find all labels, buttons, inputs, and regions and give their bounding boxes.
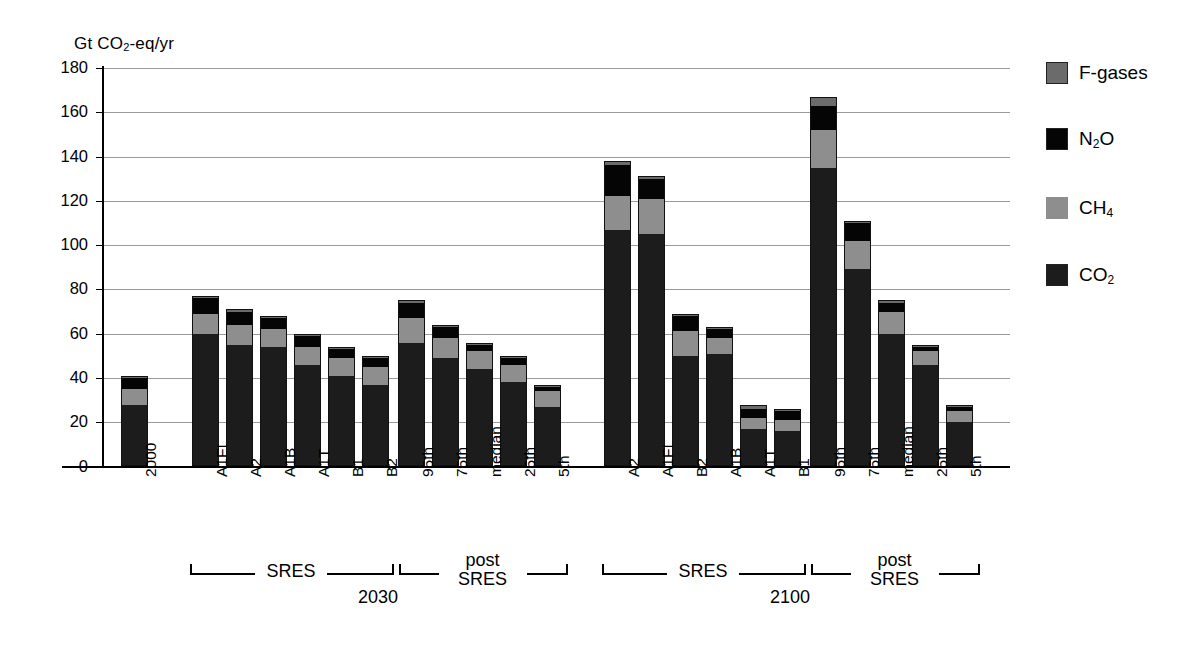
bar-segment-ch4 — [912, 351, 939, 364]
bar-segment-fgas — [740, 405, 767, 409]
bar-segment-ch4 — [604, 196, 631, 229]
bar-segment-n2o — [878, 303, 905, 312]
y-axis-tick-mark — [96, 68, 104, 69]
bar-segment-fgas — [294, 334, 321, 336]
bar-segment-fgas — [192, 296, 219, 298]
bar-segment-n2o — [810, 106, 837, 130]
bar-segment-n2o — [774, 411, 801, 420]
x-axis-label-a2-2: A2 — [247, 458, 265, 477]
y-axis-tick-label: 20 — [44, 413, 88, 430]
legend-swatch-co2-icon — [1046, 264, 1068, 286]
y-axis-tick-mark — [96, 112, 104, 113]
x-axis-label-b1-17: B1 — [795, 458, 813, 477]
bar-75th-19 — [844, 221, 871, 467]
bar-a1fi-1 — [192, 296, 219, 466]
y-axis-tick-label: 80 — [44, 280, 88, 297]
bar-segment-ch4 — [740, 418, 767, 429]
post-sres-2030-bracket-right-tick — [566, 564, 568, 575]
x-axis-label-75th-8: 75th — [453, 447, 471, 477]
bar-segment-ch4 — [192, 314, 219, 334]
x-axis-label-a1t-16: A1T — [761, 449, 779, 477]
bar-segment-fgas — [878, 300, 905, 302]
x-axis-label-25th-10: 25th — [521, 447, 539, 477]
bar-segment-fgas — [672, 314, 699, 316]
bar-segment-n2o — [260, 318, 287, 329]
bar-segment-n2o — [672, 316, 699, 331]
bar-segment-ch4 — [260, 329, 287, 347]
y-axis-tick-label: 100 — [44, 236, 88, 253]
x-axis-label-5th-22: 5th — [967, 455, 985, 477]
x-axis-label-a1t-4: A1T — [315, 449, 333, 477]
x-axis-label-a1b-15: A1B — [727, 448, 745, 477]
bar-segment-fgas — [604, 161, 631, 165]
y-axis-tick-mark — [96, 289, 104, 290]
bar-segment-fgas — [774, 409, 801, 411]
x-axis-label-a1b-3: A1B — [281, 448, 299, 477]
bar-segment-ch4 — [706, 338, 733, 353]
bar-segment-n2o — [294, 336, 321, 347]
bar-segment-n2o — [706, 329, 733, 338]
bar-segment-fgas — [534, 385, 561, 387]
emissions-stacked-bar-chart: Gt CO2-eq/yr 020406080100120140160180 20… — [0, 0, 1200, 649]
legend-swatch-n2o-icon — [1046, 128, 1068, 150]
bar-segment-ch4 — [844, 241, 871, 270]
x-axis-label-b2-14: B2 — [693, 458, 711, 477]
legend-item-co2[interactable]: CO2 — [1046, 264, 1114, 286]
legend-item-n2o[interactable]: N2O — [1046, 128, 1114, 150]
gridline — [102, 68, 1010, 69]
bar-segment-n2o — [121, 378, 148, 389]
bar-segment-fgas — [362, 356, 389, 358]
bar-segment-fgas — [466, 343, 493, 345]
y-axis-tick-mark — [96, 157, 104, 158]
gridline — [102, 201, 1010, 202]
post-sres-2030-label: postSRES — [423, 551, 543, 589]
bar-b2-6 — [362, 356, 389, 467]
bar-segment-fgas — [398, 300, 425, 302]
legend-label-n2o: N2O — [1079, 128, 1114, 151]
legend-label-fgas: F-gases — [1079, 62, 1148, 84]
y-axis-tick-label: 0 — [44, 458, 88, 475]
legend-item-fgas[interactable]: F-gases — [1046, 62, 1148, 84]
bar-segment-ch4 — [638, 199, 665, 234]
post-sres-2100-label-line2: SRES — [835, 570, 955, 589]
bar-segment-fgas — [226, 309, 253, 311]
bar-segment-n2o — [604, 165, 631, 196]
bar-segment-fgas — [260, 316, 287, 318]
y-axis-unit-label: Gt CO2-eq/yr — [74, 34, 174, 54]
bar-segment-ch4 — [226, 325, 253, 345]
y-axis-tick-label: 120 — [44, 192, 88, 209]
sres-2030-label: SRES — [231, 561, 351, 582]
y-axis-tick-mark — [96, 201, 104, 202]
y-axis-tick-label: 160 — [44, 103, 88, 120]
y-axis-unit-tail: -eq/yr — [130, 34, 175, 53]
bar-a1b-3 — [260, 316, 287, 467]
bar-a2-12 — [604, 161, 631, 467]
x-axis-label-25th-21: 25th — [933, 447, 951, 477]
x-axis-label-a2-12: A2 — [625, 458, 643, 477]
sres-2100-year-label: 2100 — [770, 587, 810, 608]
x-axis-label-5th-11: 5th — [555, 455, 573, 477]
x-axis-label-95th-7: 95th — [419, 447, 437, 477]
bar-segment-n2o — [226, 312, 253, 325]
bar-segment-ch4 — [878, 312, 905, 334]
legend-item-ch4[interactable]: CH4 — [1046, 197, 1113, 219]
bar-segment-fgas — [946, 405, 973, 407]
gridline — [102, 157, 1010, 158]
bar-segment-fgas — [500, 356, 527, 358]
bar-segment-ch4 — [432, 338, 459, 358]
bar-segment-n2o — [740, 409, 767, 418]
post-sres-2100-bracket-right-tick — [978, 564, 980, 575]
bar-segment-ch4 — [774, 420, 801, 431]
y-axis-tick-mark — [96, 334, 104, 335]
y-axis-unit-main: Gt CO — [74, 34, 123, 53]
bar-segment-ch4 — [294, 347, 321, 365]
gridline — [102, 112, 1010, 113]
post-sres-2100-label: postSRES — [835, 551, 955, 589]
bar-a1t-4 — [294, 334, 321, 467]
gridline — [102, 289, 1010, 290]
bar-segment-n2o — [362, 358, 389, 367]
legend-label-sub: 2 — [1108, 273, 1115, 287]
bar-segment-n2o — [466, 345, 493, 352]
bar-segment-ch4 — [362, 367, 389, 385]
post-sres-2030-label-line2: SRES — [423, 570, 543, 589]
